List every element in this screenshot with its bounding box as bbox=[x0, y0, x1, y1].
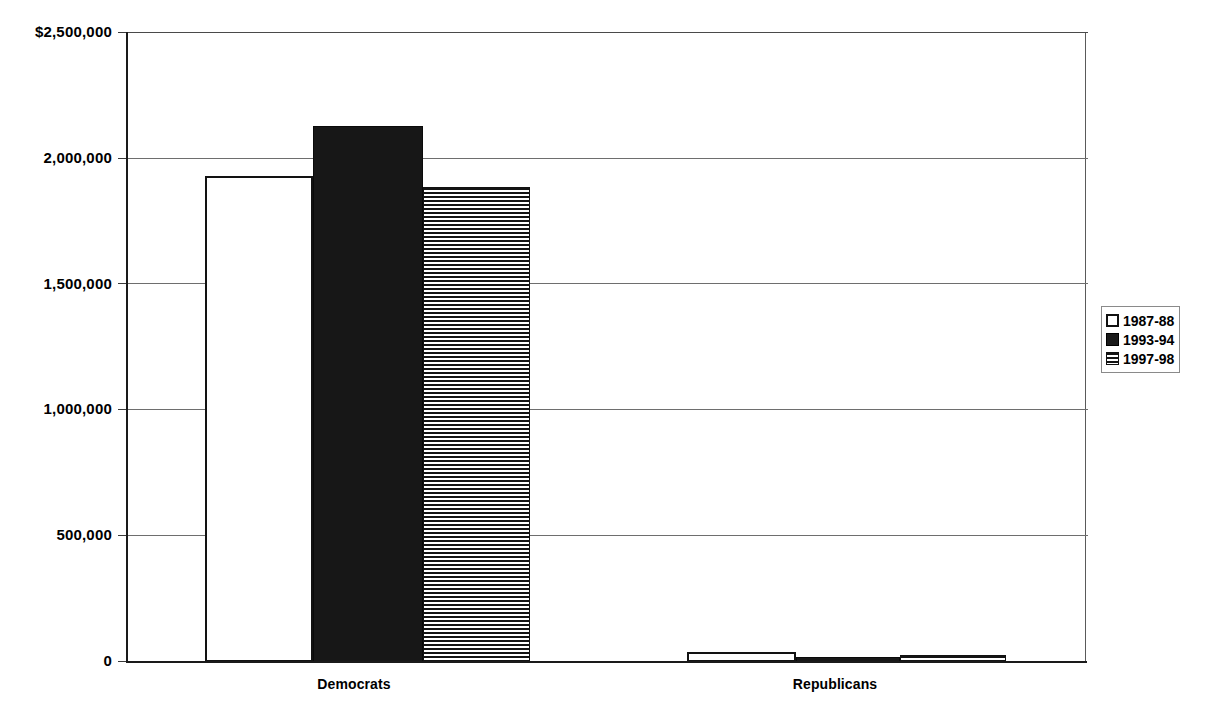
legend-swatch-white-icon bbox=[1106, 314, 1119, 327]
y-axis-tick-label-0: 0 bbox=[4, 654, 112, 668]
legend-item-1987-88[interactable]: 1987-88 bbox=[1106, 311, 1174, 330]
y-axis-tick-label-1500000: 1,500,000 bbox=[4, 277, 112, 291]
bar-democrats-1993-94 bbox=[313, 126, 423, 662]
y-axis-tick-mark-500000 bbox=[118, 535, 126, 536]
y-axis-tick-label-2000000: 2,000,000 bbox=[4, 151, 112, 165]
y-axis-tick-mark-2500000 bbox=[118, 32, 126, 33]
bar-democrats-1997-98 bbox=[423, 187, 530, 662]
y-axis-tick-label-1000000: 1,000,000 bbox=[4, 402, 112, 416]
legend-label-1993-94: 1993-94 bbox=[1123, 333, 1174, 347]
plot-area bbox=[126, 32, 1086, 662]
bar-democrats-1987-88 bbox=[205, 176, 313, 662]
gridline-2500000 bbox=[128, 32, 1088, 33]
gridline-2000000 bbox=[128, 158, 1088, 159]
legend-item-1997-98[interactable]: 1997-98 bbox=[1106, 349, 1174, 368]
bar-chart: $2,500,000 2,000,000 1,500,000 1,000,000… bbox=[0, 0, 1211, 713]
legend-swatch-striped-icon bbox=[1106, 352, 1119, 365]
legend: 1987-88 1993-94 1997-98 bbox=[1101, 306, 1180, 373]
x-axis-label-democrats: Democrats bbox=[254, 676, 454, 692]
y-axis-tick-mark-1500000 bbox=[118, 283, 126, 284]
y-axis-tick-mark-1000000 bbox=[118, 409, 126, 410]
y-axis-tick-mark-0 bbox=[118, 661, 126, 662]
legend-item-1993-94[interactable]: 1993-94 bbox=[1106, 330, 1174, 349]
legend-label-1997-98: 1997-98 bbox=[1123, 352, 1174, 366]
x-axis-label-republicans: Republicans bbox=[735, 676, 935, 692]
legend-label-1987-88: 1987-88 bbox=[1123, 314, 1174, 328]
y-axis-tick-label-2500000: $2,500,000 bbox=[4, 25, 112, 39]
y-axis-tick-label-500000: 500,000 bbox=[4, 528, 112, 542]
x-axis-line bbox=[126, 661, 1087, 663]
legend-swatch-black-icon bbox=[1106, 333, 1119, 346]
y-axis-tick-mark-2000000 bbox=[118, 158, 126, 159]
